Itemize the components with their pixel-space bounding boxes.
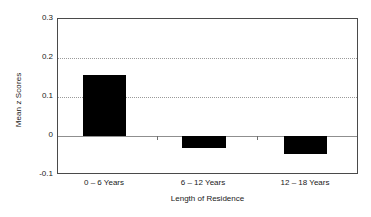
y-tick-label-0: 0.3: [20, 14, 53, 22]
bar-6-12-years: [182, 136, 226, 148]
x-axis-tick-labels: 0 – 6 Years 6 – 12 Years 12 – 18 Years: [57, 178, 358, 190]
x-axis-title: Length of Residence: [57, 194, 358, 204]
x-tick-label-0: 0 – 6 Years: [54, 178, 154, 188]
x-tick-label-2: 12 – 18 Years: [255, 178, 355, 188]
plot-area: [57, 18, 358, 174]
bar-chart-figure: Mean z Scores 0.3 0.2 0.1 0 -0.1 0 – 6 Y…: [0, 0, 371, 217]
y-axis-tick-labels: 0.3 0.2 0.1 0 -0.1: [20, 18, 53, 174]
y-tick-label-1: 0.2: [20, 53, 53, 61]
y-tick-label-2: 0.1: [20, 92, 53, 100]
y-tick-label-4: -0.1: [20, 170, 53, 178]
y-tick-label-3: 0: [20, 131, 53, 139]
bar-12-18-years: [284, 136, 327, 154]
bars-layer: [58, 19, 357, 173]
bar-0-6-years: [83, 75, 126, 136]
x-tick-label-1: 6 – 12 Years: [153, 178, 253, 188]
